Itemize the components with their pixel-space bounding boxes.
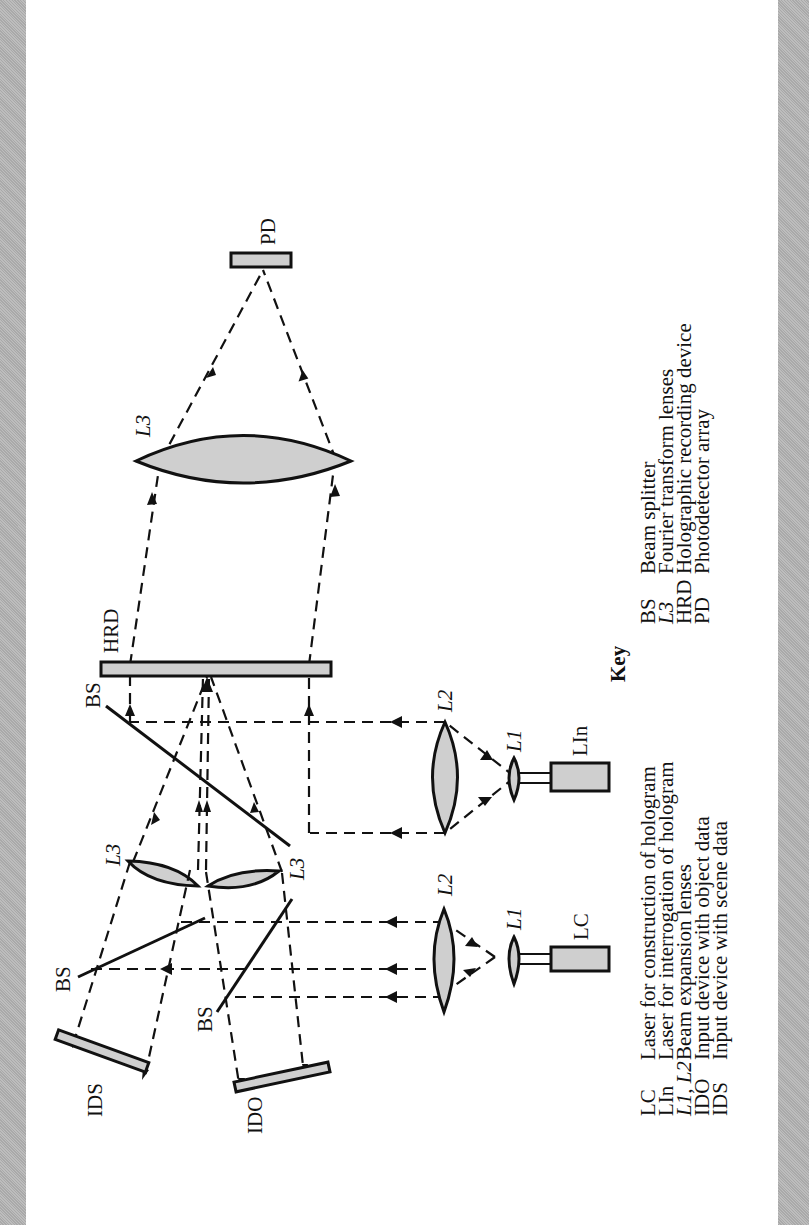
label-bs-center: BS [81,682,105,708]
beam-expansion-lens-l1-right [509,758,519,800]
label-bs-upper: BS [51,966,75,992]
beams-hrd-to-l3 [130,475,340,665]
construction-laser-lc [551,947,609,971]
optical-diagram: PD L3 HRD L2 L1 [0,0,809,1225]
beams-to-pd [161,270,336,460]
label-l3-right: L3 [285,858,309,881]
input-device-object-ido [234,1062,330,1092]
key-title: Key [606,645,630,682]
label-pd: PD [256,218,280,245]
key-abbr-pd: PD [690,597,714,624]
holographic-recording-device [101,662,331,676]
label-l1-right: L1 [502,730,526,753]
fourier-lens-l3-right [208,871,279,888]
fourier-lens-l3-left [128,861,198,886]
label-lc: LC [569,913,593,940]
key-desc-ids: Input device with scene data [708,820,732,1060]
key-abbr-ids: IDS [708,1082,732,1116]
label-l2-left: L2 [433,873,457,897]
key-legend: Key LC LIn L1, L2 IDO IDS Laser for cons… [606,323,732,1117]
label-l3-left: L3 [101,844,125,867]
label-bs-lower: BS [193,1006,217,1032]
photodetector-array [231,253,291,267]
beam-splitter-center [106,706,290,846]
label-hrd: HRD [99,609,123,653]
interrogation-laser-lin [551,763,609,791]
beam-expansion-lens-l1-left [509,937,519,984]
label-ido: IDO [243,1097,267,1134]
key-desc-pd: Photodetector array [690,408,714,574]
input-device-scene-ids [55,1030,149,1072]
fourier-lens-top [136,436,351,484]
beam-expansion-lens-l2-right [433,722,458,833]
label-l3-top: L3 [131,415,155,438]
label-lin: LIn [568,725,592,756]
label-l2-right: L2 [433,689,457,713]
label-l1-left: L1 [502,908,526,931]
fourier-beams-to-hrd [133,677,282,872]
label-ids: IDS [83,1083,107,1117]
beam-splitter-lower [217,899,292,1012]
